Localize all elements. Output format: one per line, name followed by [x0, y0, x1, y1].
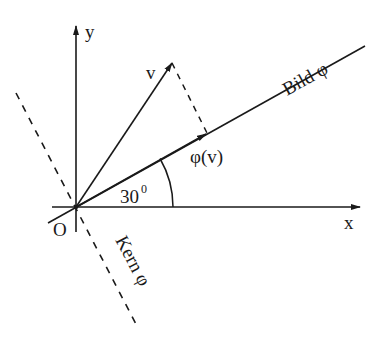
image-line-label: Bild φ	[279, 58, 332, 100]
vector-phi-v-arrow	[76, 134, 206, 207]
linear-map-diagram: y x O v φ(v) Bild φ Kern φ 30 0	[0, 0, 387, 354]
kernel-line-label: Kern φ	[111, 232, 155, 289]
phi-v-label: φ(v)	[190, 146, 223, 168]
projection-line	[172, 63, 207, 133]
vector-v-label: v	[146, 62, 156, 83]
kernel-line	[16, 93, 138, 328]
svg-text:0: 0	[141, 182, 147, 196]
angle-arc	[160, 159, 173, 208]
origin-label: O	[53, 219, 67, 240]
y-axis-label: y	[85, 21, 95, 42]
x-axis-label: x	[344, 212, 354, 233]
origin-point	[74, 205, 78, 209]
svg-text:30: 30	[120, 186, 139, 207]
angle-label: 30 0	[120, 182, 147, 207]
